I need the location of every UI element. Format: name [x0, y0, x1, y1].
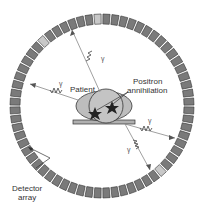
patient-label: Patient [70, 85, 95, 94]
detector-block [184, 98, 194, 105]
detector-label-line2: array [18, 193, 36, 202]
detector-block [11, 89, 22, 97]
detector-block [184, 107, 194, 114]
positron-label-line2: annihilation [127, 86, 167, 95]
gamma-label: γ [59, 80, 63, 87]
detector-block [181, 123, 192, 132]
pet-diagram: γ γ γ γ Patient Positron annihilation De… [0, 0, 204, 212]
detector-block [111, 187, 119, 198]
gamma-label: γ [148, 117, 152, 124]
detector-block [76, 185, 85, 196]
detector-block [103, 188, 110, 198]
detector-block [111, 15, 119, 26]
detector-block [85, 15, 93, 26]
detector-block [10, 107, 20, 114]
detector-block [94, 188, 101, 198]
detector-block [85, 187, 93, 198]
detector-block [103, 14, 110, 24]
detector-block [11, 115, 22, 123]
detector-label-line1: Detector [12, 184, 42, 193]
gamma-label: γ [127, 146, 131, 153]
detector-block [12, 123, 23, 132]
detector-block [76, 16, 85, 27]
detector-block [119, 16, 128, 27]
detector-block [183, 89, 194, 97]
detector-block [10, 98, 20, 105]
gamma-label: γ [101, 55, 105, 62]
pet-ring-graphic [0, 0, 204, 212]
detector-block [12, 80, 23, 89]
detector-block [183, 115, 194, 123]
positron-label-line1: Positron [133, 77, 162, 86]
detector-block [181, 80, 192, 89]
detector-block [119, 185, 128, 196]
detector-block [94, 14, 101, 24]
